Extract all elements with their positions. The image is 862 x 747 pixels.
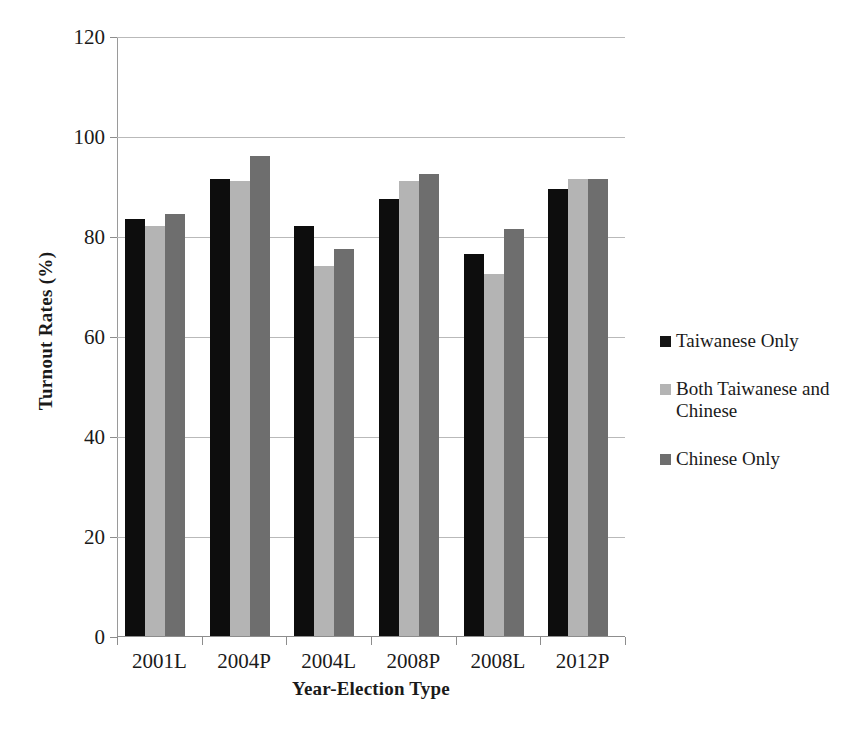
bar: [484, 274, 504, 637]
bar: [504, 229, 524, 637]
y-tick-mark: [110, 437, 117, 438]
y-tick-mark: [110, 637, 117, 638]
plot-area: 020406080100120 2001L2004P2004L2008P2008…: [117, 37, 625, 637]
y-tick-mark: [110, 237, 117, 238]
bar-group: [456, 37, 541, 636]
y-tick-mark: [110, 37, 117, 38]
y-tick-label: 0: [95, 625, 106, 650]
bar: [210, 179, 230, 637]
bar: [568, 179, 588, 637]
y-tick-label: 120: [74, 25, 106, 50]
legend-swatch-icon: [660, 336, 671, 347]
x-tick-mark: [286, 637, 287, 645]
y-tick-mark: [110, 537, 117, 538]
y-tick-label: 80: [84, 225, 105, 250]
legend-label: Chinese Only: [676, 448, 780, 470]
legend-item[interactable]: Both Taiwanese and Chinese: [660, 378, 860, 422]
x-tick-label: 2012P: [523, 649, 643, 674]
x-tick-mark: [202, 637, 203, 645]
chart-legend: Taiwanese OnlyBoth Taiwanese and Chinese…: [660, 330, 860, 496]
x-tick-mark: [371, 637, 372, 645]
bar: [379, 199, 399, 637]
x-tick-mark: [456, 637, 457, 645]
legend-label: Taiwanese Only: [676, 330, 799, 352]
chart-figure: Turnout Rates (%) 020406080100120 2001L2…: [0, 0, 862, 747]
bar: [588, 179, 608, 637]
x-axis-title: Year-Election Type: [117, 678, 625, 700]
bar-group: [540, 37, 625, 636]
bar: [165, 214, 185, 637]
y-tick-label: 40: [84, 425, 105, 450]
y-tick-mark: [110, 137, 117, 138]
bar: [464, 254, 484, 637]
bar: [230, 181, 250, 636]
bar: [125, 219, 145, 637]
bar-group: [202, 37, 287, 636]
y-tick-label: 60: [84, 325, 105, 350]
legend-swatch-icon: [660, 384, 671, 395]
bar: [145, 226, 165, 636]
legend-item[interactable]: Chinese Only: [660, 448, 860, 470]
bar: [294, 226, 314, 636]
x-tick-mark: [117, 637, 118, 645]
y-tick-label: 100: [74, 125, 106, 150]
legend-swatch-icon: [660, 454, 671, 465]
x-tick-mark: [625, 637, 626, 645]
x-tick-mark: [540, 637, 541, 645]
y-axis-title: Turnout Rates (%): [35, 201, 57, 461]
y-tick-label: 20: [84, 525, 105, 550]
bar: [314, 266, 334, 636]
legend-item[interactable]: Taiwanese Only: [660, 330, 860, 352]
legend-label: Both Taiwanese and Chinese: [676, 378, 836, 422]
bar: [548, 189, 568, 637]
bar: [250, 156, 270, 636]
bars-layer: [117, 37, 625, 637]
bar-group: [371, 37, 456, 636]
bar: [399, 181, 419, 636]
bar: [419, 174, 439, 637]
bar-group: [286, 37, 371, 636]
bar-group: [117, 37, 202, 636]
y-tick-mark: [110, 337, 117, 338]
bar: [334, 249, 354, 637]
caption-strip: [0, 736, 862, 747]
